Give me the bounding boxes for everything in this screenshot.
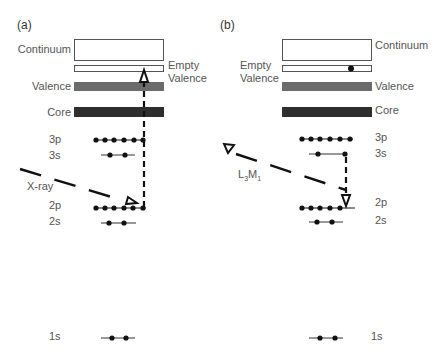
level-3s-label-b: 3s bbox=[375, 147, 387, 160]
empty-valence-label-a-line2: Valence bbox=[168, 72, 207, 85]
level-2p-label-b: 2p bbox=[375, 196, 387, 209]
level-2s-b bbox=[309, 219, 343, 224]
continuum-label-a: Continuum bbox=[18, 43, 71, 56]
l3m1-label: L3M1 bbox=[238, 168, 261, 185]
l3m1-arrowhead-icon bbox=[224, 144, 234, 153]
level-2p-label-a: 2p bbox=[49, 199, 61, 212]
level-3p-label-b: 3p bbox=[375, 131, 387, 144]
level-1s-label-a: 1s bbox=[49, 330, 61, 343]
empty-valence-band-a bbox=[75, 66, 164, 72]
level-3s-a bbox=[101, 152, 135, 157]
empty-valence-label-a-line1: Empty bbox=[168, 59, 199, 72]
panel-a-tag: (a) bbox=[17, 18, 32, 32]
core-band-a bbox=[74, 107, 164, 117]
level-1s-label-b: 1s bbox=[371, 330, 383, 343]
level-2s-label-a: 2s bbox=[49, 215, 61, 228]
decay-arrowhead-icon bbox=[342, 195, 350, 206]
valence-band-b bbox=[282, 82, 372, 91]
core-label-a: Core bbox=[47, 106, 71, 119]
valence-label-a: Valence bbox=[32, 80, 71, 93]
level-3p-label-a: 3p bbox=[49, 133, 61, 146]
level-3p-b bbox=[299, 136, 353, 141]
continuum-label-b: Continuum bbox=[375, 39, 428, 52]
panel-b-tag: (b) bbox=[220, 18, 235, 32]
level-2p-a bbox=[93, 205, 146, 210]
xray-label: X-ray bbox=[27, 180, 53, 193]
excited-electron-b bbox=[348, 66, 354, 72]
l3m1-label-sub2: 1 bbox=[257, 175, 261, 182]
empty-valence-label-b-line1: Empty bbox=[240, 59, 271, 72]
continuum-band-b bbox=[283, 40, 372, 61]
empty-valence-band-b bbox=[283, 66, 372, 72]
level-3p-a bbox=[93, 137, 145, 142]
l3m1-label-m: M bbox=[248, 168, 257, 180]
level-1s-a bbox=[101, 335, 135, 340]
core-band-b bbox=[282, 107, 372, 117]
empty-valence-label-b-line2: Valence bbox=[240, 72, 279, 85]
level-2s-a bbox=[101, 220, 136, 225]
level-2s-label-b: 2s bbox=[375, 214, 387, 227]
valence-band-a bbox=[74, 82, 164, 91]
level-3s-label-a: 3s bbox=[49, 149, 61, 162]
level-3s-b bbox=[309, 151, 348, 156]
xray-arrowhead-icon bbox=[126, 197, 137, 204]
level-1s-b bbox=[309, 335, 343, 340]
continuum-band-a bbox=[75, 40, 164, 61]
energy-level-diagram: (a) Continuum Empty Valence Valence Core… bbox=[0, 0, 444, 355]
valence-label-b: Valence bbox=[375, 80, 414, 93]
core-label-b: Core bbox=[375, 104, 399, 117]
